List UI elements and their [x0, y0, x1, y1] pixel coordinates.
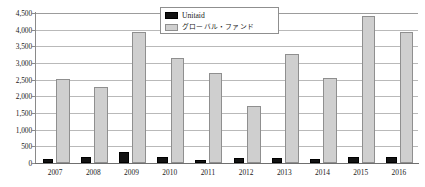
- y-axis-tick-label: 3,000: [16, 59, 32, 68]
- bar-global-fund-2014: [323, 78, 337, 163]
- bar-unitaid-2010: [157, 157, 168, 163]
- x-axis-tick-label: 2014: [315, 168, 330, 177]
- bar-unitaid-2008: [81, 157, 92, 163]
- bar-global-fund-2009: [132, 32, 146, 163]
- y-axis-tick-label: 2,500: [16, 75, 32, 84]
- bar-global-fund-2012: [247, 106, 261, 163]
- y-axis-tick-label: 3,500: [16, 42, 32, 51]
- y-axis-tick-label: 2,000: [16, 92, 32, 101]
- y-axis-tick-label: 4,000: [16, 25, 32, 34]
- bar-group: [74, 13, 112, 163]
- bar-global-fund-2008: [94, 87, 108, 163]
- chart-legend: Unitaid グローバル・ファンド: [160, 7, 279, 34]
- x-axis-tick-label: 2012: [239, 168, 254, 177]
- x-axis-tick-label: 2013: [277, 168, 292, 177]
- x-axis-tick-label: 2008: [86, 168, 101, 177]
- legend-label-global-fund: グローバル・ファンド: [182, 23, 254, 32]
- legend-swatch-icon-unitaid: [165, 12, 178, 19]
- bar-chart: 05001,0001,5002,0002,5003,0003,5004,0004…: [0, 0, 425, 187]
- bar-group: [112, 13, 150, 163]
- y-axis-labels: 05001,0001,5002,0002,5003,0003,5004,0004…: [0, 0, 34, 187]
- x-axis-tick-label: 2015: [353, 168, 368, 177]
- bars-layer: [36, 13, 418, 163]
- bar-group: [380, 13, 418, 163]
- bar-group: [342, 13, 380, 163]
- legend-label-unitaid: Unitaid: [182, 11, 205, 20]
- bar-group: [36, 13, 74, 163]
- x-axis-tick-label: 2009: [124, 168, 139, 177]
- x-axis-labels: 2007200820092010201120122013201420152016: [36, 168, 418, 184]
- bar-group: [227, 13, 265, 163]
- bar-global-fund-2007: [56, 79, 70, 163]
- bar-unitaid-2014: [310, 159, 321, 163]
- x-axis-tick-label: 2007: [48, 168, 63, 177]
- bar-global-fund-2016: [400, 32, 414, 163]
- bar-global-fund-2010: [171, 58, 185, 163]
- bar-unitaid-2007: [43, 159, 54, 163]
- bar-group: [265, 13, 303, 163]
- legend-swatch-icon-global-fund: [165, 24, 178, 31]
- bar-unitaid-2016: [386, 157, 397, 163]
- x-axis-tick-label: 2016: [392, 168, 407, 177]
- bar-global-fund-2015: [362, 16, 376, 163]
- x-axis-line: [35, 163, 419, 164]
- bar-unitaid-2009: [119, 152, 130, 163]
- legend-item-unitaid: Unitaid: [165, 10, 274, 21]
- y-axis-tick-label: 1,500: [16, 109, 32, 118]
- bar-unitaid-2011: [195, 160, 206, 163]
- bar-group: [189, 13, 227, 163]
- y-axis-tick-label: 1,000: [16, 125, 32, 134]
- x-axis-tick-label: 2011: [201, 168, 216, 177]
- bar-unitaid-2013: [272, 158, 283, 163]
- legend-item-global-fund: グローバル・ファンド: [165, 22, 274, 33]
- bar-unitaid-2015: [348, 157, 359, 163]
- x-axis-tick-label: 2010: [162, 168, 177, 177]
- y-axis-tick-label: 4,500: [16, 9, 32, 18]
- bar-global-fund-2013: [285, 54, 299, 163]
- bar-group: [151, 13, 189, 163]
- bar-global-fund-2011: [209, 73, 223, 163]
- bar-unitaid-2012: [234, 158, 245, 163]
- bar-group: [303, 13, 341, 163]
